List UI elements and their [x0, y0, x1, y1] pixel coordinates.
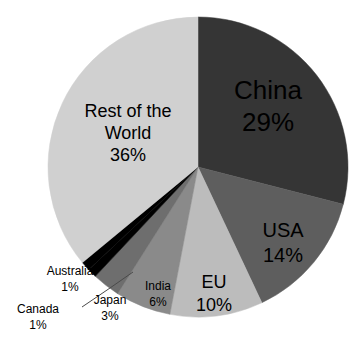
slice-label-usa: USA — [262, 219, 304, 241]
slice-label-eu: EU — [201, 272, 226, 292]
slice-value-japan: 3% — [101, 309, 119, 323]
slice-label-japan: Japan — [94, 293, 127, 307]
slice-label-rest-of-the-world-line1: Rest of the — [84, 101, 171, 121]
slice-label-australia: Australia — [47, 264, 94, 278]
pie-chart-figure: China29%USA14%EU10%India6%Japan3%Canada1… — [0, 0, 362, 347]
slice-label-china: China — [234, 75, 302, 105]
slice-value-eu: 10% — [196, 295, 232, 315]
slice-value-rest-of-the-world: 36% — [110, 145, 146, 165]
pie-chart-canvas: China29%USA14%EU10%India6%Japan3%Canada1… — [0, 0, 362, 347]
slice-value-australia: 1% — [61, 280, 79, 294]
slice-label-rest-of-the-world-line2: World — [105, 123, 152, 143]
slice-value-canada: 1% — [29, 318, 47, 332]
slice-value-india: 6% — [149, 295, 167, 309]
slice-label-canada: Canada — [17, 302, 59, 316]
slice-value-china: 29% — [242, 107, 294, 137]
slice-label-india: India — [145, 279, 171, 293]
slice-value-usa: 14% — [263, 244, 303, 266]
